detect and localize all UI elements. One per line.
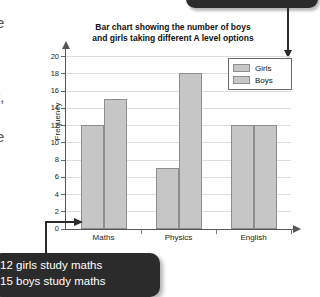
x-axis-label-maths: Maths [74, 233, 134, 242]
legend-swatch-boys [233, 76, 250, 84]
bottom-callout-line-2: 15 boys study maths [0, 273, 152, 289]
legend-swatch-girls [233, 64, 250, 72]
bottom-callout-box: 12 girls study maths 15 boys study maths [0, 253, 160, 297]
x-axis-label-english: English [224, 233, 284, 242]
bar-english-boys [254, 125, 277, 229]
y-axis-tick-label: 2 [41, 207, 59, 216]
bottom-callout-line-1: 12 girls study maths [0, 257, 152, 273]
x-axis-tick [216, 229, 217, 234]
x-axis-tick [291, 229, 292, 234]
y-axis-arrow-icon [62, 41, 70, 49]
x-axis-label-physics: Physics [149, 233, 209, 242]
y-axis-tick-label: 8 [41, 155, 59, 164]
y-axis-tick-label: 4 [41, 190, 59, 199]
x-axis-tick [141, 229, 142, 234]
legend-label-girls: Girls [255, 64, 271, 73]
y-axis-tick-label: 0 [41, 224, 59, 233]
y-axis-tick-label: 20 [41, 52, 59, 61]
legend-item-boys: Boys [233, 74, 287, 86]
gridline [66, 56, 291, 57]
bar-maths-girls [81, 125, 104, 229]
legend-item-girls: Girls [233, 62, 287, 74]
y-axis-line [65, 48, 66, 229]
bar-english-girls [231, 125, 254, 229]
bottom-callout-leader-arrow-icon [45, 221, 75, 223]
x-axis-arrow-icon [293, 225, 301, 233]
y-axis-title: Frequency [53, 92, 62, 152]
bar-physics-boys [179, 73, 202, 228]
y-axis-tick-label: 6 [41, 172, 59, 181]
bar-maths-boys [104, 99, 127, 228]
chart-legend: Girls Boys [228, 58, 292, 90]
bottom-callout-leader-vertical [45, 221, 47, 257]
legend-label-boys: Boys [255, 76, 273, 85]
bar-physics-girls [156, 168, 179, 228]
x-axis-line [65, 229, 294, 230]
y-axis-tick-label: 18 [41, 69, 59, 78]
